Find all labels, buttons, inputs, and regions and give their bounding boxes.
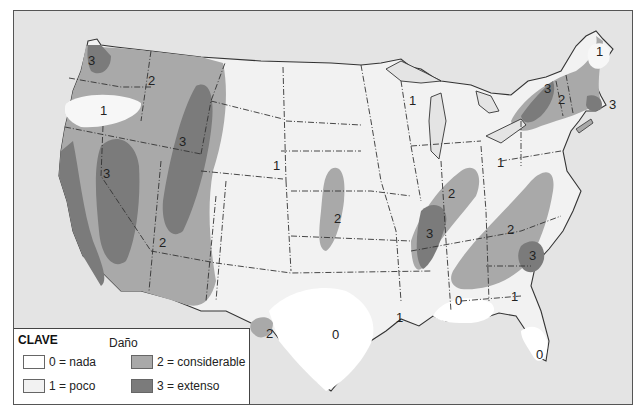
svg-text:1: 1 [273,158,280,173]
legend-label: 0 = nada [49,355,96,369]
svg-text:3: 3 [609,97,616,112]
swatch-level-3 [131,379,153,393]
svg-text:0: 0 [455,293,462,308]
legend-label: 3 = extenso [157,379,219,393]
svg-text:1: 1 [497,155,504,170]
svg-text:1: 1 [100,103,107,118]
svg-text:2: 2 [448,186,455,201]
svg-text:1: 1 [396,310,403,325]
svg-text:0: 0 [536,347,543,362]
svg-text:3: 3 [88,53,95,68]
svg-text:3: 3 [103,166,110,181]
svg-text:2: 2 [334,211,341,226]
swatch-level-0 [23,355,45,369]
legend-subtitle: Daño [109,336,138,350]
svg-text:2: 2 [266,326,273,341]
legend-item-considerable: 2 = considerable [131,355,245,369]
legend-title: CLAVE [18,333,58,347]
svg-text:2: 2 [507,222,514,237]
legend-item-nada: 0 = nada [23,355,96,369]
map-frame: 3 2 1 3 3 2 1 2 2 0 1 1 2 3 2 3 0 1 1 0 … [13,10,633,405]
svg-text:3: 3 [529,248,536,263]
legend-item-poco: 1 = poco [23,379,95,393]
svg-text:3: 3 [426,226,433,241]
swatch-level-2 [131,355,153,369]
legend-label: 2 = considerable [157,355,245,369]
svg-text:1: 1 [409,93,416,108]
svg-text:0: 0 [332,327,339,342]
legend-item-extenso: 3 = extenso [131,379,219,393]
svg-text:1: 1 [511,289,518,304]
legend-box: CLAVE Daño 0 = nada 1 = poco 2 = conside… [14,328,250,405]
svg-text:2: 2 [159,235,166,250]
zone-0-texas [269,288,373,391]
svg-text:2: 2 [558,92,565,107]
svg-text:1: 1 [596,44,603,59]
swatch-level-1 [23,379,45,393]
svg-text:2: 2 [148,73,155,88]
legend-label: 1 = poco [49,379,95,393]
svg-text:3: 3 [179,134,186,149]
svg-text:3: 3 [544,81,551,96]
